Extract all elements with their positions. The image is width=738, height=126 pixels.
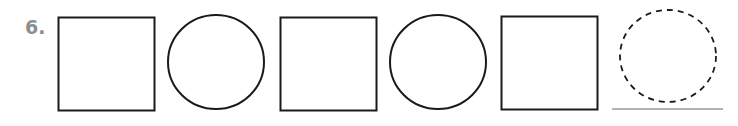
square-shape-3 bbox=[502, 17, 598, 110]
circle-shape-2 bbox=[390, 15, 486, 109]
square-shape-2 bbox=[281, 18, 377, 111]
circle-shape-1 bbox=[168, 15, 264, 109]
dashed-circle-answer[interactable] bbox=[620, 10, 716, 102]
pattern-sequence bbox=[0, 0, 738, 126]
square-shape-1 bbox=[59, 18, 155, 111]
